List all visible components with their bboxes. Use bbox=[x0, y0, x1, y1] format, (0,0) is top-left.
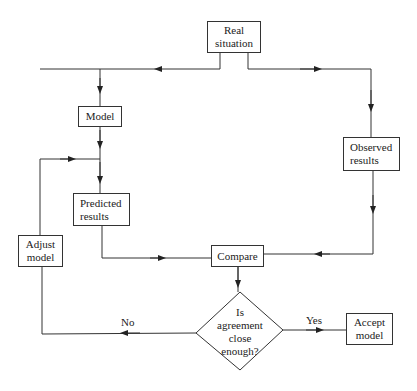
node-adjust-model-line1: Adjust bbox=[26, 238, 55, 251]
node-predicted-results-line1: Predicted bbox=[80, 197, 122, 210]
node-compare-label: Compare bbox=[217, 250, 257, 263]
edge-predicted-to-compare bbox=[102, 225, 211, 258]
decision-line4: enough? bbox=[221, 345, 258, 358]
node-real-situation-line2: situation bbox=[215, 37, 253, 50]
node-predicted-results-line2: results bbox=[80, 210, 109, 223]
edge-real-to-model-horizontal bbox=[40, 52, 220, 69]
node-adjust-model: Adjust model bbox=[18, 235, 63, 267]
edge-observed-to-compare bbox=[264, 170, 373, 254]
node-predicted-results: Predicted results bbox=[73, 193, 130, 226]
decision-line3: close bbox=[229, 332, 252, 345]
edge-label-no: No bbox=[121, 316, 134, 329]
node-accept-model-line2: model bbox=[356, 329, 384, 342]
node-accept-model: Accept model bbox=[346, 313, 393, 345]
edge-real-to-observed bbox=[248, 52, 371, 137]
edge-no-to-adjust bbox=[42, 266, 196, 334]
node-compare: Compare bbox=[211, 245, 264, 267]
node-accept-model-line1: Accept bbox=[354, 316, 385, 329]
decision-line1: Is bbox=[236, 306, 244, 319]
decision-line2: agreement bbox=[217, 319, 263, 332]
node-real-situation: Real situation bbox=[207, 21, 261, 53]
node-real-situation-line1: Real bbox=[224, 24, 244, 37]
node-observed-results-line1: Observed bbox=[350, 141, 392, 154]
edge-label-yes: Yes bbox=[306, 314, 322, 327]
node-adjust-model-line2: model bbox=[27, 251, 55, 264]
decision-question: Is agreement close enough? bbox=[205, 306, 275, 358]
node-observed-results: Observed results bbox=[343, 137, 400, 171]
node-observed-results-line2: results bbox=[350, 154, 379, 167]
node-model-label: Model bbox=[86, 110, 115, 123]
node-model: Model bbox=[78, 106, 122, 127]
flowchart-canvas: Real situation Model Predicted results A… bbox=[0, 0, 417, 391]
